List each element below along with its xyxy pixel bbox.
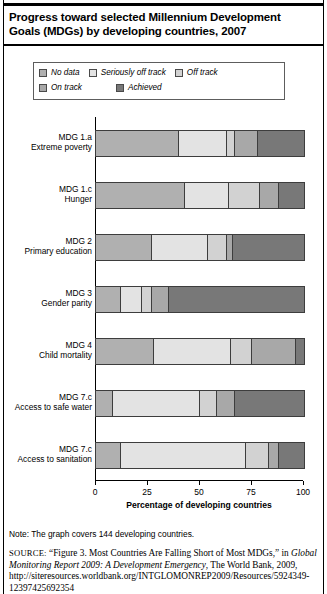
legend-item-seriously-off-track: Seriously off track: [89, 68, 166, 77]
bar-segment: [96, 443, 121, 468]
x-tick: [303, 481, 304, 485]
legend-label-achieved: Achieved: [128, 83, 162, 92]
bar-segment: [185, 183, 229, 208]
category-label-5: MDG 4Child mortality: [4, 340, 92, 360]
category-label-line: MDG 2: [4, 236, 92, 246]
bar-segment: [121, 287, 142, 312]
bar-segment: [179, 131, 227, 156]
legend-item-achieved: Achieved: [116, 83, 162, 92]
x-axis-title: Percentage of developing countries: [95, 500, 303, 510]
category-label-line: Child mortality: [4, 350, 92, 360]
category-label-7: MDG 7.cAccess to sanitation: [4, 444, 92, 464]
legend-label-no-data: No data: [51, 68, 80, 77]
category-label-line: Gender parity: [4, 298, 92, 308]
x-tick-label: 50: [194, 487, 203, 497]
figure-page: Progress toward selected Millennium Deve…: [0, 0, 327, 594]
category-label-line: MDG 1.a: [4, 132, 92, 142]
legend-item-off-track: Off track: [175, 68, 218, 77]
source-quote: “Figure 3. Most Countries Are Falling Sh…: [49, 548, 291, 558]
x-tick: [95, 481, 96, 485]
bar-segment: [200, 391, 217, 416]
legend-label-off-track: Off track: [187, 68, 218, 77]
category-label-line: MDG 4: [4, 340, 92, 350]
x-tick: [251, 481, 252, 485]
bar-2: [95, 182, 305, 209]
title-rule-top: [4, 3, 323, 6]
bar-segment: [269, 443, 279, 468]
bar-segment: [121, 443, 246, 468]
bar-segment: [233, 235, 304, 260]
category-label-line: Primary education: [4, 246, 92, 256]
x-tick-label: 100: [296, 487, 310, 497]
legend-item-on-track: On track: [39, 83, 82, 92]
category-label-line: MDG 1.c: [4, 184, 92, 194]
bar-segment: [258, 131, 304, 156]
title-rule-bottom: [4, 44, 323, 46]
category-label-4: MDG 3Gender parity: [4, 288, 92, 308]
bar-6: [95, 390, 305, 417]
bar-segment: [113, 391, 200, 416]
bar-segment: [229, 183, 260, 208]
legend-row-2: On track Achieved: [39, 83, 171, 92]
category-label-line: Hunger: [4, 194, 92, 204]
bar-7: [95, 442, 305, 469]
source-prefix: SOURCE:: [9, 548, 47, 558]
bar-3: [95, 234, 305, 261]
category-label-3: MDG 2Primary education: [4, 236, 92, 256]
category-labels: MDG 1.aExtreme povertyMDG 1.cHungerMDG 2…: [0, 117, 92, 480]
bar-segment: [217, 391, 236, 416]
x-tick-label: 75: [246, 487, 255, 497]
bar-segment: [252, 339, 296, 364]
x-tick-label: 0: [93, 487, 98, 497]
bar-segment: [96, 235, 152, 260]
category-label-line: MDG 7.c: [4, 392, 92, 402]
legend-row-1: No data Seriously off track Off track: [39, 68, 227, 77]
bar-segment: [208, 235, 227, 260]
figure-title: Progress toward selected Millennium Deve…: [9, 10, 314, 38]
bar-4: [95, 286, 305, 313]
bar-segment: [142, 287, 152, 312]
bar-segment: [96, 391, 113, 416]
plot-area: [95, 117, 303, 480]
bar-segment: [152, 235, 208, 260]
legend-swatch-achieved: [116, 84, 124, 92]
category-label-line: Access to safe water: [4, 402, 92, 412]
bar-segment: [227, 131, 235, 156]
figure-source: SOURCE: “Figure 3. Most Countries Are Fa…: [9, 548, 321, 594]
legend-label-on-track: On track: [51, 83, 82, 92]
chart-legend: No data Seriously off track Off track On…: [33, 62, 285, 100]
x-tick: [147, 481, 148, 485]
bar-segment: [96, 183, 185, 208]
bar-segment: [260, 183, 279, 208]
x-tick-label: 25: [142, 487, 151, 497]
legend-item-no-data: No data: [39, 68, 80, 77]
category-label-line: MDG 3: [4, 288, 92, 298]
page-border-right: [323, 0, 324, 594]
legend-swatch-seriously-off-track: [89, 69, 97, 77]
bar-segment: [96, 339, 154, 364]
bar-segment: [235, 391, 304, 416]
bar-segment: [296, 339, 304, 364]
bar-1: [95, 130, 305, 157]
bar-segment: [235, 131, 258, 156]
bar-segment: [96, 287, 121, 312]
bar-segment: [279, 183, 304, 208]
legend-swatch-on-track: [39, 84, 47, 92]
category-label-line: MDG 7.c: [4, 444, 92, 454]
bar-segment: [246, 443, 269, 468]
legend-label-seriously-off-track: Seriously off track: [101, 68, 166, 77]
bar-5: [95, 338, 305, 365]
bar-segment: [231, 339, 252, 364]
bar-segment: [169, 287, 304, 312]
bar-segment: [154, 339, 231, 364]
figure-note: Note: The graph covers 144 developing co…: [9, 529, 319, 540]
legend-swatch-off-track: [175, 69, 183, 77]
x-tick: [199, 481, 200, 485]
category-label-line: Access to sanitation: [4, 454, 92, 464]
bar-segment: [279, 443, 304, 468]
category-label-6: MDG 7.cAccess to safe water: [4, 392, 92, 412]
category-label-2: MDG 1.cHunger: [4, 184, 92, 204]
category-label-line: Extreme poverty: [4, 142, 92, 152]
bar-segment: [96, 131, 179, 156]
bar-segment: [152, 287, 169, 312]
